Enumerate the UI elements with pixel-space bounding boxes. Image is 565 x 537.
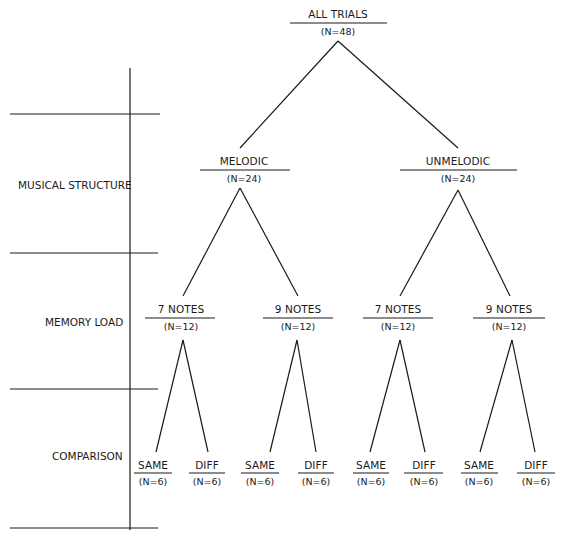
node-count: (N=12) [164,321,199,332]
leaf-label: DIFF [195,459,219,471]
leaf-count: (N=6) [357,476,386,487]
leaf-count: (N=6) [410,476,439,487]
leaf-label: DIFF [304,459,328,471]
branch-mel9-same [270,340,297,452]
branch-unmel9-same [480,340,512,452]
row-label-memory-load: MEMORY LOAD [45,316,123,328]
node-count: (N=12) [281,321,316,332]
branch-melodic-7 [183,188,240,296]
branch-unmel7-same [370,340,400,452]
leaf-count: (N=6) [193,476,222,487]
node-count: (N=12) [492,321,527,332]
node-count: (N=12) [381,321,416,332]
leaf-label: SAME [245,459,275,471]
branch-unmel7-diff [400,340,425,452]
leaf-label: DIFF [412,459,436,471]
node-melodic-label: MELODIC [220,155,269,167]
leaf-label: SAME [464,459,494,471]
branch-mel7-diff [183,340,208,452]
branch-mel9-diff [297,340,316,452]
node-root-label: ALL TRIALS [308,8,368,20]
branch-unmel9-diff [512,340,535,452]
node-label: 9 NOTES [486,303,533,315]
leaf-label: SAME [356,459,386,471]
row-label-comparison: COMPARISON [52,450,123,462]
leaf-label: DIFF [524,459,548,471]
node-melodic-count: (N=24) [227,173,262,184]
node-label: 9 NOTES [275,303,322,315]
branch-root-unmelodic [338,41,458,148]
branch-unmelodic-7 [400,190,458,296]
leaf-count: (N=6) [302,476,331,487]
node-unmelodic-label: UNMELODIC [426,155,490,167]
leaf-count: (N=6) [246,476,275,487]
branch-unmelodic-9 [458,190,510,296]
node-label: 7 NOTES [158,303,205,315]
leaf-count: (N=6) [465,476,494,487]
leaf-count: (N=6) [522,476,551,487]
node-root-count: (N=48) [321,26,356,37]
leaf-label: SAME [138,459,168,471]
branch-mel7-same [156,340,183,452]
node-label: 7 NOTES [375,303,422,315]
row-label-musical-structure: MUSICAL STRUCTURE [18,179,132,191]
branch-melodic-9 [240,188,298,296]
node-unmelodic-count: (N=24) [441,173,476,184]
branch-root-melodic [240,41,338,148]
leaf-count: (N=6) [139,476,168,487]
